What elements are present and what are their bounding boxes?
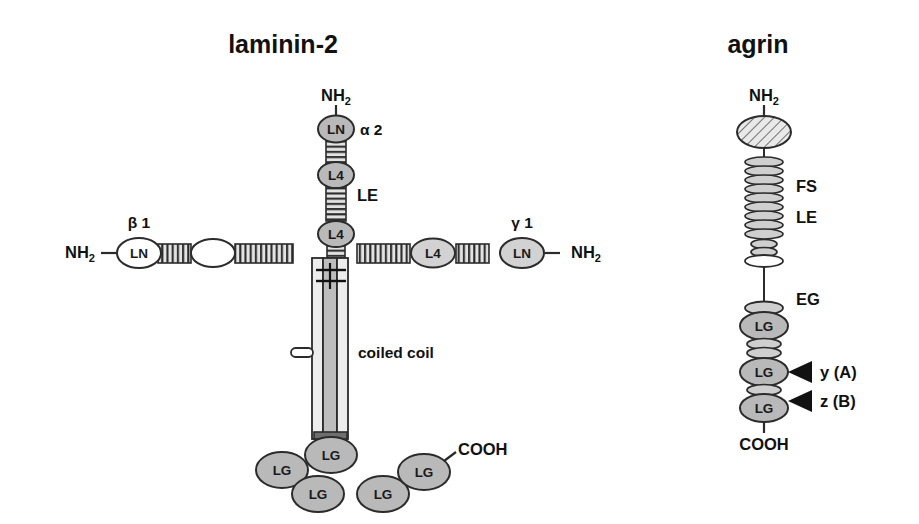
coiled-coil-strand-right (337, 258, 348, 439)
beta1-ln-label: LN (130, 246, 148, 261)
lg-label-2: LG (273, 463, 292, 478)
agrin-lg-label-3: LG (755, 401, 774, 416)
coiled-coil-strand-left (312, 258, 323, 439)
agrin-le-label: LE (796, 208, 817, 226)
alpha2-l4-label-2: L4 (328, 227, 344, 242)
beta1-l4-domain (191, 239, 235, 267)
agrin-lg-label-2: LG (755, 365, 774, 380)
alpha2-chain-label: α 2 (360, 121, 382, 138)
le-disc (745, 255, 783, 267)
agrin-eg-disc-3 (747, 348, 781, 359)
splice-site-y-label: y (A) (820, 363, 857, 381)
agrin-cooh-label: COOH (739, 435, 789, 453)
agrin-le-stack (745, 240, 783, 268)
coiled-coil-label: coiled coil (358, 344, 434, 361)
beta1-chain-label: β 1 (128, 214, 151, 231)
laminin-cooh-label: COOH (458, 440, 508, 458)
lg-label-3: LG (309, 487, 328, 502)
gamma1-le-rod-1 (357, 244, 410, 263)
gamma1-le-rod-2 (456, 244, 489, 263)
agrin-fs-label: FS (796, 177, 817, 195)
lg-label-1: LG (322, 448, 341, 463)
beta1-le-rod-1 (158, 244, 191, 263)
figure-canvas: laminin-2 NH2 LN L4 L4 α 2 LE (0, 0, 919, 524)
agrin-fs-stack (745, 157, 783, 239)
coiled-coil-stub (291, 348, 313, 357)
splice-site-z-label: z (B) (820, 392, 856, 410)
gamma1-l4-label: L4 (425, 246, 441, 261)
agrin-eg-label: EG (796, 290, 820, 308)
laminin-title: laminin-2 (228, 30, 338, 58)
lg-label-4: LG (374, 487, 393, 502)
agrin-lg-label-1: LG (755, 319, 774, 334)
alpha2-l4-label-1: L4 (328, 168, 344, 183)
agrin-title: agrin (727, 30, 788, 58)
fs-disc (745, 229, 783, 239)
gamma1-ln-label: LN (513, 246, 531, 261)
le-rod-label: LE (357, 186, 378, 204)
agrin-nta-domain (737, 116, 791, 148)
diagram-svg: laminin-2 NH2 LN L4 L4 α 2 LE (0, 0, 919, 524)
beta1-le-rod-2 (235, 244, 293, 263)
lg-label-5: LG (415, 465, 434, 480)
gamma1-chain-label: γ 1 (511, 214, 533, 231)
alpha2-ln-label: LN (327, 122, 345, 137)
